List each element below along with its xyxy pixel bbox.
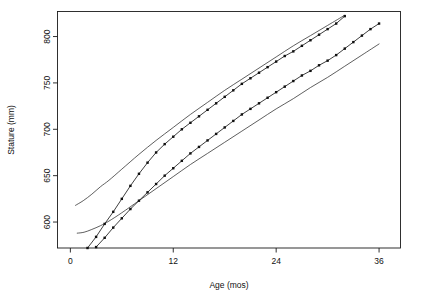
data-point-marker [318,33,320,35]
data-point-marker [146,161,148,163]
x-axis-ticks [70,248,379,253]
data-point-marker [232,89,234,91]
data-point-marker [309,70,311,72]
data-point-marker [86,247,88,249]
y-tick-label: 750 [42,76,52,90]
data-point-marker [292,80,294,82]
y-axis-ticks [53,37,58,222]
data-point-marker [284,85,286,87]
data-point-marker [121,217,123,219]
data-point-marker [344,15,346,17]
data-point-marker [189,122,191,124]
x-tick-label: 36 [374,256,384,266]
data-point-marker [266,66,268,68]
x-tick-label: 12 [169,256,179,266]
data-point-marker [378,22,380,24]
data-point-marker [163,143,165,145]
reference-curve [77,44,379,233]
data-point-marker [344,47,346,49]
data-point-marker [103,237,105,239]
data-point-marker [215,102,217,104]
y-axis-tick-labels: 600650700750800 [42,29,52,229]
x-axis-tick-labels: 0122436 [68,256,384,266]
x-tick-label: 0 [68,256,73,266]
data-point-marker [138,173,140,175]
data-point-marker [301,45,303,47]
data-point-marker [95,236,97,238]
data-point-marker [326,28,328,30]
data-point-marker [172,167,174,169]
data-point-marker [129,185,131,187]
data-point-marker [198,146,200,148]
growth-chart-figure: 0122436 600650700750800 Age (mos) Statur… [0,0,424,306]
data-point-marker [352,41,354,43]
data-point-marker [181,160,183,162]
data-point-marker [146,191,148,193]
chart-canvas: 0122436 600650700750800 Age (mos) Statur… [0,0,424,306]
plot-frame [58,12,401,249]
data-point-marker [121,198,123,200]
data-point-marker [181,128,183,130]
data-series-line [96,24,379,248]
data-point-marker [335,22,337,24]
data-point-marker [318,64,320,66]
data-point-marker [112,226,114,228]
x-axis-title: Age (mos) [209,280,248,290]
data-point-marker [189,152,191,154]
data-point-marker [155,151,157,153]
data-point-marker [275,60,277,62]
x-tick-label: 24 [271,256,281,266]
data-point-marker [103,223,105,225]
data-point-marker [206,139,208,141]
data-point-marker [206,109,208,111]
data-point-marker [301,74,303,76]
data-point-marker [95,246,97,248]
data-point-marker [224,126,226,128]
data-point-marker [129,208,131,210]
y-tick-label: 650 [42,168,52,182]
data-point-marker [275,91,277,93]
data-point-marker [172,136,174,138]
data-point-marker [258,102,260,104]
y-tick-label: 700 [42,122,52,136]
data-point-marker [215,133,217,135]
data-point-marker [241,83,243,85]
y-tick-label: 800 [42,29,52,43]
data-point-marker [258,72,260,74]
data-point-marker [309,39,311,41]
data-point-marker [155,183,157,185]
data-point-marker [241,113,243,115]
y-tick-label: 600 [42,215,52,229]
data-point-marker [249,77,251,79]
data-point-marker [335,54,337,56]
data-point-marker [326,59,328,61]
data-point-marker [198,115,200,117]
data-point-marker [224,96,226,98]
data-point-marker [232,120,234,122]
data-point-marker [361,34,363,36]
data-point-marker [369,28,371,30]
data-point-marker [112,211,114,213]
data-point-marker [249,108,251,110]
data-point-marker [163,174,165,176]
data-point-marker [292,50,294,52]
data-point-marker [284,55,286,57]
data-series-group [86,15,380,249]
y-axis-title: Stature (mm) [6,105,16,155]
data-point-marker [266,97,268,99]
data-point-marker [138,200,140,202]
